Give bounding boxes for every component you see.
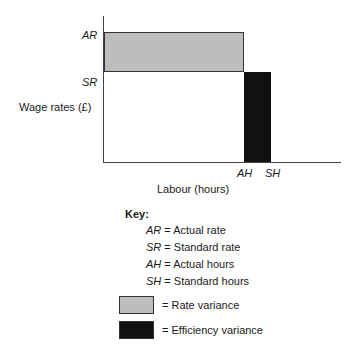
rate-variance-swatch [119,296,154,314]
rate-variance-region [104,32,244,72]
key-def-ah: AH = Actual hours [146,258,234,270]
efficiency-variance-swatch [119,321,154,339]
y-axis-label: Wage rates (£) [19,101,91,113]
x-tick-sh: SH [265,167,280,179]
y-tick-ar: AR [82,29,97,41]
efficiency-variance-region [244,72,271,162]
x-axis-label: Labour (hours) [157,183,229,195]
x-axis [103,162,341,163]
key-def-ar: AR = Actual rate [146,224,226,236]
efficiency-variance-legend-label: = Efficiency variance [162,324,263,336]
x-tick-ah: AH [237,167,252,179]
key-def-sh: SH = Standard hours [146,275,249,287]
rate-variance-legend-label: = Rate variance [162,299,239,311]
key-def-sr: SR = Standard rate [146,241,240,253]
y-tick-sr: SR [82,76,97,88]
key-title: Key: [125,208,149,220]
